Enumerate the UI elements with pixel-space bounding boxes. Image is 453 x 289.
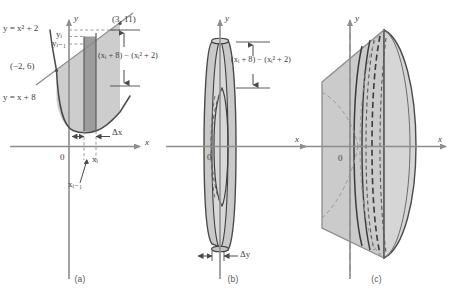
panel-c: x y 0 (c): [300, 0, 453, 289]
panel-a: x y 0 y = x² + 2 y = x + 8 (−2, 6) (3, 1…: [0, 0, 160, 289]
panel-b-graphic: x y 0: [158, 0, 308, 289]
point-right-label: (3, 11): [112, 15, 136, 24]
height-expression-label-a: (xᵢ + 8) − (xᵢ² + 2): [98, 52, 158, 60]
y-i-minus-1-label: yᵢ₋₁: [52, 39, 66, 48]
panel-a-graphic: x y 0: [0, 0, 160, 289]
x-i-label: xᵢ: [92, 155, 98, 164]
delta-x-label: Δx: [112, 128, 122, 137]
solid-left-face-c: [322, 30, 384, 258]
delta-y-label: Δy: [240, 250, 250, 259]
origin-label-c: 0: [338, 153, 343, 163]
origin-label-b: 0: [207, 152, 212, 162]
height-expression-label-b: (xᵢ + 8) − (xᵢ² + 2): [231, 56, 291, 64]
panel-c-caption: (c): [300, 274, 453, 284]
panel-b: x y 0 (xᵢ + 8) − (xᵢ² + 2) Δy (b): [158, 0, 308, 289]
figure-root: x y 0 y = x² + 2 y = x + 8 (−2, 6) (3, 1…: [0, 0, 453, 289]
point-marker-left: [55, 69, 58, 72]
y-axis-label-a: y: [73, 13, 78, 23]
origin-label-a: 0: [60, 152, 65, 162]
panel-b-caption: (b): [158, 274, 308, 284]
x-axis-label-b: x: [294, 134, 299, 144]
point-left-label: (−2, 6): [10, 62, 35, 71]
panel-a-caption: (a): [0, 274, 160, 284]
solid-right-body-c: [384, 30, 416, 258]
x-axis-label-c: x: [437, 134, 442, 144]
line-equation-label: y = x + 8: [3, 93, 36, 102]
x-i-minus-1-label: xᵢ₋₁: [68, 180, 82, 189]
panel-c-graphic: x y 0: [300, 0, 453, 289]
x-axis-label-a: x: [144, 137, 149, 147]
representative-strip: [84, 37, 96, 132]
y-axis-label-b: y: [224, 13, 229, 23]
parabola-equation-label: y = x² + 2: [3, 24, 38, 33]
y-axis-label-c: y: [354, 13, 359, 23]
